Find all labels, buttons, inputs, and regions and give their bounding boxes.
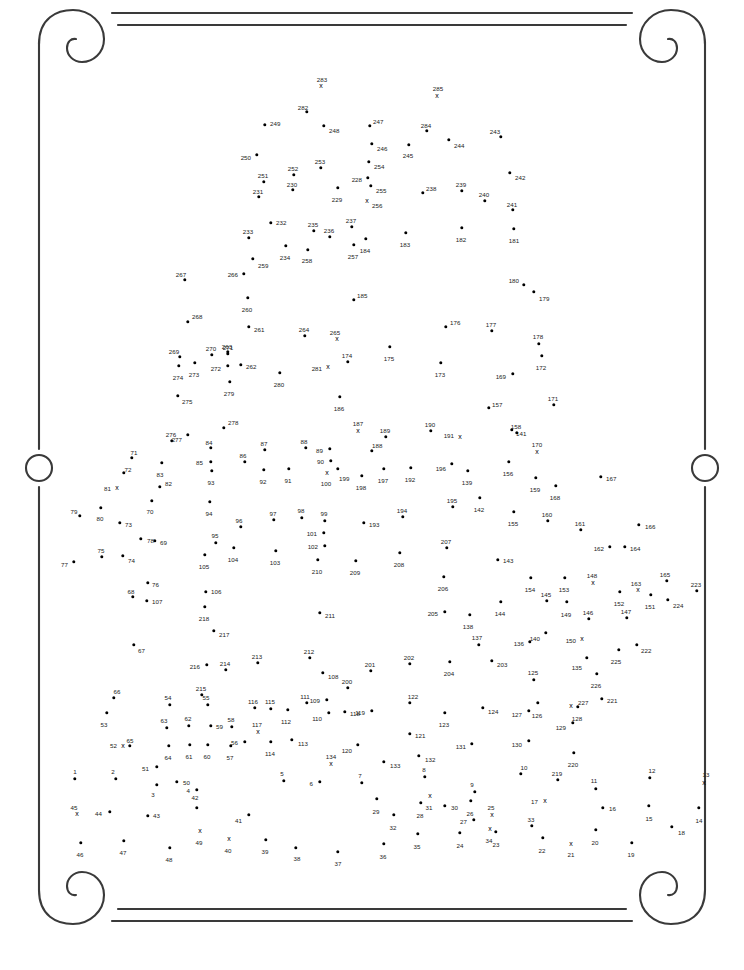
dot-number-label: 157 [492, 402, 502, 408]
dot-number-label: 6 [310, 781, 313, 787]
dot-marker [637, 523, 640, 526]
dot-marker [282, 779, 285, 782]
dot-number-label: 137 [472, 635, 482, 641]
dot-number-label: 131 [456, 744, 466, 750]
dot-marker [443, 804, 446, 807]
dot-marker-x: x [569, 840, 573, 847]
dot-number-label: 174 [342, 353, 352, 359]
dot-number-label: 219 [552, 771, 562, 777]
dot-marker [323, 544, 326, 547]
dot-marker [354, 559, 357, 562]
dot-marker [224, 668, 227, 671]
dot-number-label: 283 [317, 77, 327, 83]
dot-number-label: 238 [426, 186, 436, 192]
dot-marker [99, 506, 102, 509]
dot-marker [369, 184, 372, 187]
dot-number-label: 247 [373, 119, 383, 125]
dot-number-label: 119 [355, 710, 365, 716]
dot-marker [256, 661, 259, 664]
dot-marker [630, 841, 633, 844]
dot-marker [601, 806, 604, 809]
dot-marker [204, 590, 207, 593]
dot-marker [264, 838, 267, 841]
dot-number-label: 139 [462, 480, 472, 486]
dot-number-label: 136 [514, 641, 524, 647]
dot-number-label: 33 [528, 817, 535, 823]
dot-number-label: 3 [151, 792, 154, 798]
dot-number-label: 87 [261, 441, 268, 447]
dot-number-label: 278 [228, 420, 238, 426]
dot-marker [79, 841, 82, 844]
dot-marker [370, 142, 373, 145]
dot-number-label: 147 [621, 609, 631, 615]
dot-marker [546, 519, 549, 522]
dot-number-label: 237 [346, 218, 356, 224]
dot-marker [158, 485, 161, 488]
dot-marker [617, 648, 620, 651]
dot-number-label: 191 [444, 433, 454, 439]
dot-marker [443, 610, 446, 613]
dot-number-label: 265 [330, 330, 340, 336]
dot-number-label: 243 [490, 129, 500, 135]
dot-marker [360, 781, 363, 784]
dot-number-label: 162 [594, 546, 604, 552]
dot-marker [416, 832, 419, 835]
dot-number-label: 135 [572, 665, 582, 671]
dot-number-label: 106 [211, 589, 221, 595]
dot-number-label: 274 [173, 375, 183, 381]
dot-marker [511, 208, 514, 211]
dot-marker [222, 426, 225, 429]
dot-marker [600, 697, 603, 700]
dot-number-label: 78 [147, 538, 154, 544]
dot-number-label: 239 [456, 182, 466, 188]
dot-marker [206, 743, 209, 746]
dot-number-label: 2 [111, 769, 114, 775]
dot-number-label: 47 [120, 850, 127, 856]
dot-marker [272, 518, 275, 521]
dot-number-label: 227 [578, 700, 588, 706]
dot-marker [329, 459, 332, 462]
dot-number-label: 249 [270, 121, 280, 127]
dot-number-label: 251 [258, 173, 268, 179]
dot-number-label: 221 [607, 698, 617, 704]
dot-marker [666, 598, 669, 601]
dot-number-label: 20 [592, 840, 599, 846]
dot-marker [508, 171, 511, 174]
dot-marker [425, 129, 428, 132]
dot-number-label: 230 [287, 182, 297, 188]
dot-number-label: 75 [98, 548, 105, 554]
dot-number-label: 246 [377, 146, 387, 152]
dot-number-label: 199 [339, 476, 349, 482]
dot-marker [529, 576, 532, 579]
dot-number-label: 89 [316, 448, 323, 454]
dot-number-label: 85 [196, 460, 203, 466]
dot-marker [263, 448, 266, 451]
dot-number-label: 161 [575, 521, 585, 527]
dot-marker [325, 698, 328, 701]
dot-number-label: 188 [372, 443, 382, 449]
dot-number-label: 198 [356, 485, 366, 491]
dot-number-label: 37 [335, 861, 342, 867]
dot-marker [146, 814, 149, 817]
dot-number-label: 109 [310, 698, 320, 704]
dot-marker-x: x [535, 448, 539, 455]
dot-marker [253, 706, 256, 709]
dot-number-label: 80 [97, 516, 104, 522]
dot-number-label: 123 [439, 722, 449, 728]
dot-marker [203, 553, 206, 556]
dot-marker [322, 531, 325, 534]
dot-marker [118, 521, 121, 524]
dot-number-label: 110 [312, 716, 322, 722]
dot-marker [647, 804, 650, 807]
dot-number-label: 281 [312, 366, 322, 372]
dot-number-label: 127 [512, 712, 522, 718]
dot-number-label: 220 [568, 762, 578, 768]
dot-number-label: 241 [507, 202, 517, 208]
dot-marker [483, 199, 486, 202]
dot-marker [451, 505, 454, 508]
dot-marker [188, 743, 191, 746]
dot-marker [608, 545, 611, 548]
dot-number-label: 5 [280, 771, 283, 777]
dot-number-label: 212 [304, 649, 314, 655]
dot-number-label: 285 [433, 86, 443, 92]
